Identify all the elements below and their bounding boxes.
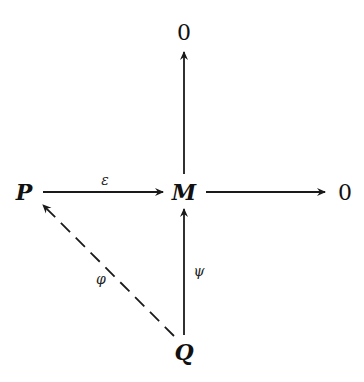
node-P: P <box>15 179 34 205</box>
dashed-arrow-Q-to-P <box>43 205 174 336</box>
node-M: M <box>171 179 197 205</box>
label-phi: φ <box>96 271 106 287</box>
node-Q: Q <box>174 339 193 365</box>
label-epsilon: ε <box>101 172 109 188</box>
commutative-diagram: P M 0 0 Q ε ψ φ <box>0 0 364 382</box>
node-zero-right: 0 <box>338 180 352 205</box>
label-psi: ψ <box>194 263 206 279</box>
node-zero-top: 0 <box>177 20 191 45</box>
